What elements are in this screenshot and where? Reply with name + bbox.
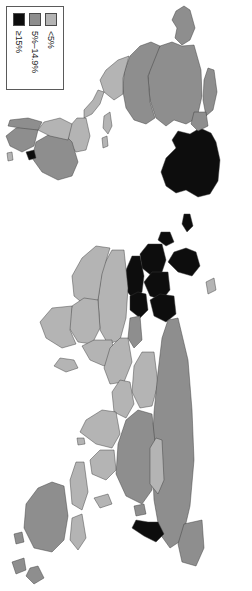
legend-label-under-5: <5% [46,31,56,49]
legend-item: <5% [44,13,58,83]
legend-label-5-to-14-9: 5%–14.9% [30,31,40,73]
map-rotator: <5% 5%–14.9% ≥15% [0,0,224,591]
region-sri-lanka [77,438,85,445]
legend-swatch-under-5 [45,13,57,26]
legend-item: ≥15% [12,13,26,83]
region-korea [134,504,146,516]
figure-container: <5% 5%–14.9% ≥15% Figure 7–1Proportion o… [0,0,252,591]
region-tasmania [14,532,24,544]
legend-swatch-15-plus [13,13,25,26]
legend-swatch-5-to-14-9 [29,13,41,26]
legend-label-15-plus: ≥15% [14,31,24,53]
region-hispaniola [102,136,108,148]
legend-item: 5%–14.9% [28,13,42,83]
map-legend: <5% 5%–14.9% ≥15% [6,6,64,90]
region-falklands [7,152,13,161]
